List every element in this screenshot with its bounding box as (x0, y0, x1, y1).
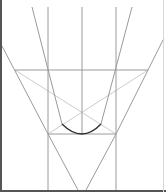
frame-bottom-border (0, 190, 166, 192)
line-d-bottom-right (86, 134, 116, 190)
line-d-bottom-left (48, 134, 78, 190)
construction-diagram (0, 0, 166, 195)
frame-right-border (163, 0, 164, 192)
line-d-top-left (32, 7, 62, 124)
line-d-outer-left (2, 46, 48, 134)
construction-lines-group (2, 7, 164, 190)
frame-left-border (0, 0, 2, 192)
